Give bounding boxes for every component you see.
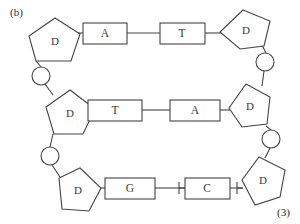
base-a-top: A xyxy=(83,23,127,44)
connector-sugar-to-phosphate-left-lower xyxy=(50,134,53,147)
base-g-bottom-label: G xyxy=(126,182,134,194)
connector-phosphate-to-sugar-middle-right xyxy=(262,71,264,86)
sugar-bottom-right-label: D xyxy=(259,174,267,186)
phosphate-left-upper xyxy=(32,67,50,85)
sugar-top-left: D xyxy=(29,18,80,61)
panel-label: (b) xyxy=(10,6,23,19)
sugar-middle-right: D xyxy=(229,84,270,127)
sugar-top-right: D xyxy=(220,10,270,49)
phosphate-right-lower xyxy=(262,130,280,148)
connector-sugar-to-phosphate-left-upper xyxy=(36,61,41,67)
connector-phosphate-to-sugar-middle-left xyxy=(45,84,53,95)
base-group: A T T A G C xyxy=(83,23,230,199)
base-a-middle: A xyxy=(170,100,220,121)
connector-phosphate-to-sugar-bottom-right xyxy=(265,148,270,158)
base-t-middle: T xyxy=(88,100,142,121)
base-c-bottom: C xyxy=(185,178,230,199)
sugar-bottom-right: D xyxy=(242,157,285,205)
dna-structure-diagram: D D D D D D xyxy=(0,0,300,224)
connector-phosphate-to-sugar-bottom-left xyxy=(52,165,60,177)
sugar-middle-left-label: D xyxy=(66,107,74,119)
base-t-top: T xyxy=(160,23,205,44)
dna-diagram-canvas: D D D D D D xyxy=(0,0,300,224)
base-c-bottom-label: C xyxy=(203,182,211,194)
corner-label: (3) xyxy=(277,206,290,219)
base-t-top-label: T xyxy=(178,27,185,39)
base-a-top-label: A xyxy=(101,27,110,39)
phosphate-left-lower xyxy=(41,147,59,165)
sugar-bottom-left-label: D xyxy=(74,184,82,196)
base-a-middle-label: A xyxy=(191,104,200,116)
base-g-bottom: G xyxy=(105,178,155,199)
connector-sugar-to-phosphate-right-lower xyxy=(266,126,271,130)
sugar-top-right-label: D xyxy=(242,24,250,36)
base-t-middle-label: T xyxy=(111,104,118,116)
sugar-bottom-left: D xyxy=(59,168,101,211)
phosphate-right-upper xyxy=(256,53,274,71)
sugar-top-left-label: D xyxy=(51,35,59,47)
sugar-middle-right-label: D xyxy=(246,100,254,112)
